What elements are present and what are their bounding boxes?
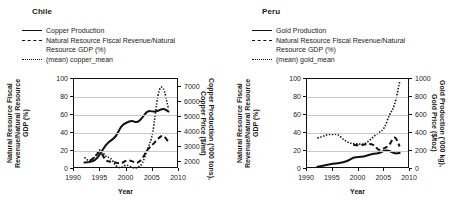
- y-tick-label-right: 4000: [184, 127, 200, 134]
- y-tick-mark-left: [70, 132, 73, 133]
- y-tick-mark-right: [178, 131, 181, 132]
- y-tick-mark-left: [303, 114, 306, 115]
- x-tick-mark: [152, 168, 153, 171]
- y-tick-mark-left: [303, 150, 306, 151]
- y-tick-mark-right: [178, 161, 181, 162]
- x-tick-mark: [126, 168, 127, 171]
- y-tick-label-right: 400: [415, 129, 427, 136]
- y-tick-mark-left: [303, 132, 306, 133]
- y-tick-label-left: 60: [48, 111, 68, 118]
- x-tick-label: 2000: [350, 174, 366, 181]
- series-layer-peru: [307, 79, 410, 169]
- gridline: [74, 97, 177, 98]
- y-tick-mark-left: [70, 78, 73, 79]
- x-tick-label: 2005: [144, 174, 160, 181]
- x-tick-label: 1990: [298, 174, 314, 181]
- panel-peru: Peru Gold Production Natural Resource Fi…: [230, 0, 460, 214]
- x-tick-mark: [409, 168, 410, 171]
- series-line: [317, 150, 399, 166]
- y-tick-label-left: 80: [48, 93, 68, 100]
- legend-key-dashed-icon: [252, 36, 272, 45]
- legend-key-dotted-icon: [252, 55, 272, 64]
- series-layer-chile: [74, 79, 179, 169]
- series-line: [317, 82, 399, 145]
- y-tick-mark-right: [409, 96, 412, 97]
- x-tick-mark: [178, 168, 179, 171]
- plot-area-chile: [73, 78, 178, 168]
- y-tick-mark-right: [178, 146, 181, 147]
- legend-chile: Copper Production Natural Resource Fisca…: [22, 26, 227, 65]
- legend-item-label: (mean) copper_mean: [46, 55, 113, 64]
- y-tick-mark-right: [409, 132, 412, 133]
- y-tick-label-right: 3000: [184, 142, 200, 149]
- legend-item-label: Natural Resource Fiscal Revenue/Natural …: [46, 36, 175, 54]
- x-tick-label: 1995: [324, 174, 340, 181]
- x-tick-mark: [306, 168, 307, 171]
- x-tick-label: 1995: [91, 174, 107, 181]
- y-tick-label-left: 100: [281, 75, 301, 82]
- gridline: [307, 133, 408, 134]
- legend-item-label: (mean) gold_mean: [276, 55, 335, 64]
- x-tick-mark: [332, 168, 333, 171]
- figure-root: Chile Copper Production Natural Resource…: [0, 0, 460, 214]
- y-tick-label-right: 5000: [184, 112, 200, 119]
- x-tick-label: 2005: [375, 174, 391, 181]
- legend-peru: Gold Production Natural Resource Fiscal …: [252, 26, 457, 65]
- y-tick-label-right: 800: [415, 93, 427, 100]
- y-tick-label-left: 80: [281, 93, 301, 100]
- y-tick-label-left: 0: [281, 165, 301, 172]
- y-tick-label-right: 6000: [184, 97, 200, 104]
- gridline: [74, 151, 177, 152]
- y-axis-label-right: Gold Production ('000 kg), Gold Price ($…: [437, 78, 446, 168]
- y-axis-label-right: Copper Production ('000 tons), Copper Pr…: [206, 78, 215, 168]
- x-tick-mark: [73, 168, 74, 171]
- legend-key-dotted-icon: [22, 55, 42, 64]
- legend-item: Copper Production: [22, 26, 227, 35]
- legend-item-label: Copper Production: [46, 26, 104, 35]
- x-tick-label: 2010: [170, 174, 186, 181]
- panel-title-chile: Chile: [32, 7, 52, 16]
- legend-key-solid-icon: [22, 26, 42, 35]
- x-axis-label: Year: [306, 188, 409, 195]
- legend-key-dashed-icon: [22, 36, 42, 45]
- y-tick-label-left: 40: [281, 129, 301, 136]
- y-tick-mark-right: [409, 78, 412, 79]
- chart-peru: Natural Resource Fiscal Revenue/Natural …: [230, 74, 460, 214]
- y-tick-label-left: 100: [48, 75, 68, 82]
- legend-item: Gold Production: [252, 26, 457, 35]
- y-tick-label-right: 7000: [184, 82, 200, 89]
- plot-area-peru: [306, 78, 409, 168]
- chart-chile: Natural Resource Fiscal Revenue/Natural …: [0, 74, 230, 214]
- y-tick-label-left: 40: [48, 129, 68, 136]
- panel-chile: Chile Copper Production Natural Resource…: [0, 0, 230, 214]
- x-tick-mark: [99, 168, 100, 171]
- legend-item: Natural Resource Fiscal Revenue/Natural …: [22, 36, 227, 54]
- y-tick-label-right: 1000: [415, 75, 431, 82]
- y-tick-label-left: 60: [281, 111, 301, 118]
- x-tick-mark: [358, 168, 359, 171]
- x-axis-label: Year: [73, 188, 178, 195]
- series-line: [90, 136, 169, 163]
- gridline: [307, 115, 408, 116]
- y-tick-mark-left: [303, 78, 306, 79]
- y-tick-label-right: 200: [415, 147, 427, 154]
- gridline: [74, 115, 177, 116]
- y-tick-label-left: 20: [48, 147, 68, 154]
- gridline: [307, 151, 408, 152]
- x-tick-label: 2000: [118, 174, 134, 181]
- y-tick-mark-left: [70, 96, 73, 97]
- y-tick-mark-right: [178, 86, 181, 87]
- legend-item: Natural Resource Fiscal Revenue/Natural …: [252, 36, 457, 54]
- legend-key-solid-icon: [252, 26, 272, 35]
- y-tick-mark-right: [178, 116, 181, 117]
- legend-item: (mean) copper_mean: [22, 55, 227, 64]
- x-tick-mark: [383, 168, 384, 171]
- y-tick-label-left: 0: [48, 165, 68, 172]
- y-tick-mark-left: [303, 96, 306, 97]
- y-tick-label-right: 600: [415, 111, 427, 118]
- x-tick-label: 2010: [401, 174, 417, 181]
- gridline: [307, 97, 408, 98]
- legend-item-label: Natural Resource Fiscal Revenue/Natural …: [276, 36, 405, 54]
- y-tick-mark-right: [409, 150, 412, 151]
- x-tick-label: 1990: [65, 174, 81, 181]
